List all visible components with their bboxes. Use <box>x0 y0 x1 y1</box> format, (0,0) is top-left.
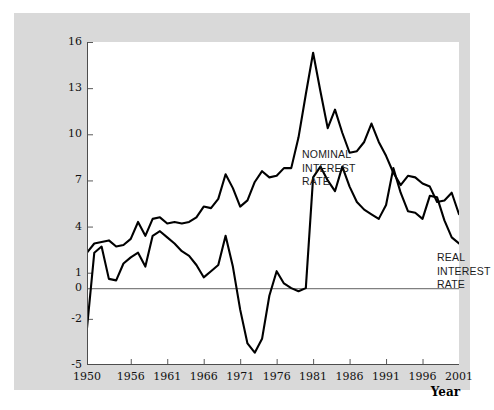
y-tick-label: -5 <box>56 359 82 370</box>
y-tick-label: -2 <box>56 313 82 324</box>
x-tick-label: 1976 <box>257 371 297 382</box>
y-tick-label: 0 <box>56 282 82 293</box>
x-tick-label: 1961 <box>147 371 187 382</box>
y-tick-label: 10 <box>56 128 82 139</box>
annotation-nominal-interest-rate: NOMINAL INTEREST RATE <box>302 148 356 189</box>
y-tick-label: 4 <box>56 221 82 232</box>
chart-screenshot: Interest rate (percent per year) NOMINAL… <box>0 0 494 410</box>
x-tick-label: 2001 <box>439 371 479 382</box>
series-line-real <box>87 167 459 353</box>
x-tick-label: 1971 <box>220 371 260 382</box>
y-tick-label: 16 <box>56 36 82 47</box>
plot-canvas: NOMINAL INTEREST RATE REAL INTEREST RATE <box>87 42 459 365</box>
tick-marks <box>87 43 459 366</box>
y-tick-label: 13 <box>56 82 82 93</box>
x-tick-label: 1956 <box>111 371 151 382</box>
x-tick-label: 1986 <box>330 371 370 382</box>
x-axis-title: Year <box>431 385 460 399</box>
y-tick-label: 1 <box>56 267 82 278</box>
x-tick-label: 1950 <box>67 371 107 382</box>
figure-panel: Interest rate (percent per year) NOMINAL… <box>14 13 470 390</box>
x-tick-label: 1981 <box>293 371 333 382</box>
x-tick-label: 1996 <box>403 371 443 382</box>
x-tick-label: 1991 <box>366 371 406 382</box>
plot-svg <box>87 42 459 365</box>
x-tick-label: 1966 <box>184 371 224 382</box>
y-tick-label: 7 <box>56 174 82 185</box>
annotation-real-interest-rate: REAL INTEREST RATE <box>437 251 491 292</box>
series-line-nominal <box>87 53 459 253</box>
